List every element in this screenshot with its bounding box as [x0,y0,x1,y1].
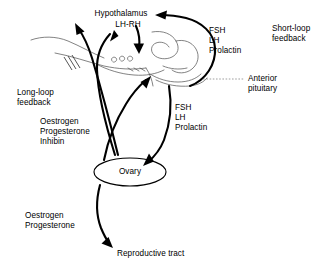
anterior-pituitary-label-line1: Anterior [248,74,277,84]
ovary-to-reproductive-tract-arrow [97,185,113,248]
short-loop-feedback-arrow [155,11,215,87]
anterior-pituitary-outline-icon [152,31,179,58]
ovarian-feedback-inhibin-label: Inhibin [40,137,64,147]
short-loop-feedback-label-line1: Short-loop [272,24,310,34]
lh-rh-arrowhead-icon [134,44,145,55]
reproductive-tract-arrowhead-icon [102,237,114,248]
portal-vessel-loop-3-icon [127,56,132,61]
ovarian-tract-oestrogen-label: Oestrogen [25,211,64,221]
brain-base-contour-icon [31,37,104,58]
short-loop-feedback-label-line2: feedback [272,34,306,44]
ovarian-feedback-progesterone-label: Progesterone [40,127,90,137]
long-loop-upper-left-arrowhead-icon [75,23,85,35]
long-loop-feedback-label-line2: feedback [17,98,51,108]
pituitary-fold-upper-icon [172,40,198,72]
portal-vessel-loop-2-icon [119,56,124,61]
long-loop-feedback-label-line1: Long-loop [17,88,54,98]
lh-rh-label: LH-RH [97,20,159,30]
hypothalamus-label: Hypothalamus [83,9,159,19]
hypothalamic-pituitary-ovarian-axis-diagram: Hypothalamus LH-RH FSH LH Prolactin Shor… [0,0,331,268]
pituitary-cleft-icon [163,66,187,69]
reproductive-tract-label: Reproductive tract [117,249,184,259]
ovary-label: Ovary [100,167,160,177]
pituitary-hormones-lower-lh-label: LH [175,113,186,123]
pituitary-hormones-upper-prolactin-label: Prolactin [209,46,241,56]
portal-vessel-loop-1-icon [111,57,116,62]
ovarian-feedback-oestrogen-label: Oestrogen [40,117,79,127]
anterior-pituitary-label-line2: pituitary [248,84,277,94]
median-eminence-contour-icon [55,53,146,69]
long-loop-hypothalamus-arrowhead-icon [110,30,119,42]
anatomy-sketch-group [31,31,207,86]
pituitary-hormones-lower-prolactin-label: Prolactin [175,123,207,133]
pituitary-hormones-lower-fsh-label: FSH [175,103,192,113]
ovary-to-pituitary-arrow [104,76,151,160]
ovarian-tract-progesterone-label: Progesterone [25,221,75,231]
pituitary-hormones-upper-lh-label: LH [209,36,220,46]
pituitary-to-ovary-arrow [143,86,170,166]
long-loop-to-hypothalamus-arrow [97,30,119,155]
ovary-to-pituitary-arrowhead-icon [141,76,152,89]
pituitary-hormones-upper-fsh-label: FSH [209,26,226,36]
